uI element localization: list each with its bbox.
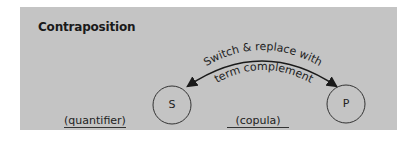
quantifier-blank-line xyxy=(64,127,126,128)
copula-blank-line xyxy=(227,127,289,128)
subject-node-label: S xyxy=(162,98,182,111)
predicate-node-label: P xyxy=(336,97,356,110)
arc-label-line2: term complement xyxy=(212,60,316,86)
quantifier-label: (quantifier) xyxy=(64,114,126,127)
diagram-graphics: Switch & replace with term complement xyxy=(0,0,417,151)
copula-label: (copula) xyxy=(227,114,289,127)
